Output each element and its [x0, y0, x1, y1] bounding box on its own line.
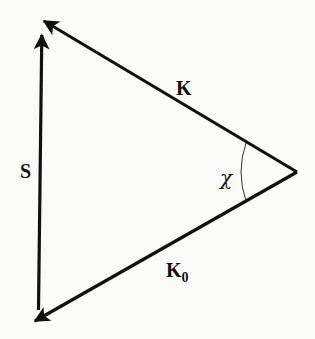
vector-diagram: K S χ K0: [0, 0, 315, 339]
label-k0: K0: [166, 259, 189, 285]
vector-k0: [35, 172, 297, 321]
label-k0-base: K: [166, 259, 182, 281]
vector-k: [44, 21, 297, 172]
label-s: S: [20, 160, 31, 182]
label-k: K: [176, 77, 192, 99]
vector-s: [39, 35, 42, 310]
angle-arc: [241, 143, 246, 201]
label-k0-subscript: 0: [182, 270, 189, 285]
label-chi: χ: [218, 166, 234, 190]
